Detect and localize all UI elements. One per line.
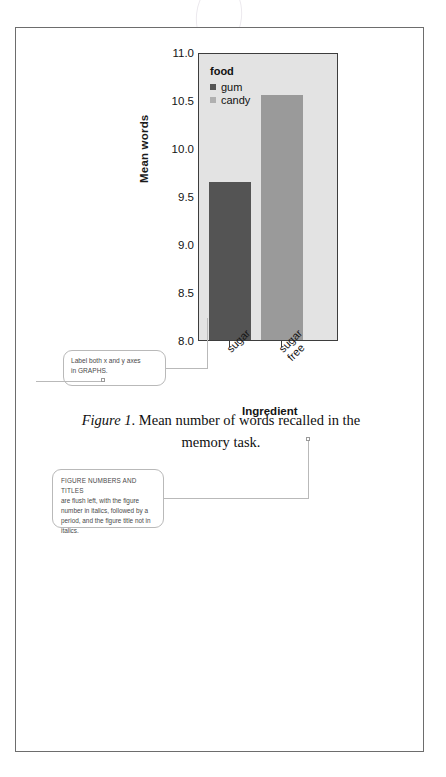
legend-label-candy: candy bbox=[221, 94, 250, 106]
callout-figure-note-line1: FIGURE NUMBERS AND TITLES bbox=[61, 476, 155, 496]
bar-chart: Mean words 11.010.510.09.59.08.58.0 food… bbox=[146, 53, 346, 393]
bar-sugar-gum bbox=[209, 182, 251, 340]
legend: food gum candy bbox=[210, 65, 250, 106]
legend-swatch-candy bbox=[210, 97, 216, 103]
callout-2-connector-v bbox=[308, 441, 309, 499]
y-tick-label: 9.0 bbox=[178, 239, 194, 251]
bar-sugarfree-candy bbox=[261, 95, 303, 340]
figure-caption-prefix: Figure 1 bbox=[82, 412, 132, 428]
y-tick-label: 10.0 bbox=[172, 143, 194, 155]
legend-title: food bbox=[210, 65, 250, 77]
y-tick-label: 9.5 bbox=[178, 191, 194, 203]
figure-caption: Figure 1. Mean number of words recalled … bbox=[61, 410, 381, 454]
y-axis-title: Mean words bbox=[138, 115, 150, 183]
callout-figure-note-line4: period, and the figure title not bbox=[61, 517, 144, 524]
figure-caption-sep: . bbox=[132, 412, 139, 428]
y-tick-label: 11.0 bbox=[172, 47, 194, 59]
callout-2-connector-dot bbox=[306, 437, 310, 441]
callout-1-connector-v bbox=[207, 318, 208, 369]
document-page: Mean words 11.010.510.09.59.08.58.0 food… bbox=[15, 27, 424, 752]
callout-axis-note-line1: Label both x and y axes bbox=[71, 356, 158, 366]
callout-axis-note-line2: in GRAPHS. bbox=[71, 366, 158, 376]
callout-figure-note: FIGURE NUMBERS AND TITLES are flush left… bbox=[52, 469, 164, 528]
y-axis-ticks: 11.010.510.09.59.08.58.0 bbox=[160, 53, 194, 341]
y-tick-label: 8.5 bbox=[178, 287, 194, 299]
x-axis-labels: sugarsugarfree bbox=[198, 347, 338, 391]
callout-2-connector-h bbox=[163, 498, 309, 499]
callout-figure-note-line2: are flush left, with the figure bbox=[61, 497, 139, 504]
callout-1-connector-h bbox=[166, 368, 208, 369]
figure-caption-text: Mean number of words recalled in the mem… bbox=[139, 412, 360, 450]
y-tick-label: 8.0 bbox=[178, 335, 194, 347]
legend-item-candy: candy bbox=[210, 94, 250, 106]
plot-panel: food gum candy bbox=[198, 53, 338, 341]
legend-swatch-gum bbox=[210, 84, 216, 90]
ingredient-pointer-dot bbox=[101, 378, 105, 382]
y-tick-label: 10.5 bbox=[172, 95, 194, 107]
ingredient-pointer-line bbox=[36, 381, 102, 382]
legend-item-gum: gum bbox=[210, 81, 250, 93]
callout-figure-note-line3: number in italics, followed by a bbox=[61, 507, 148, 514]
legend-label-gum: gum bbox=[221, 81, 242, 93]
